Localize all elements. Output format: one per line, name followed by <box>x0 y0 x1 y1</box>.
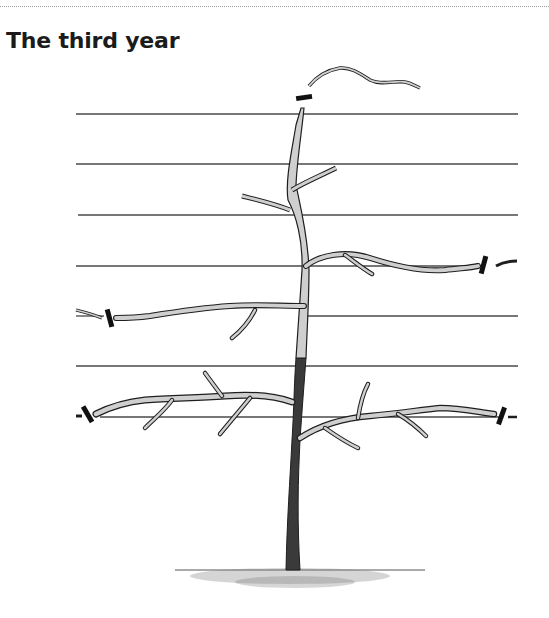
espalier-tree-illustration <box>0 0 549 618</box>
removed-leader-shoot <box>309 68 420 88</box>
trunk <box>286 108 309 570</box>
leader-cut-mark <box>296 94 313 101</box>
ground-stipple <box>175 568 425 588</box>
